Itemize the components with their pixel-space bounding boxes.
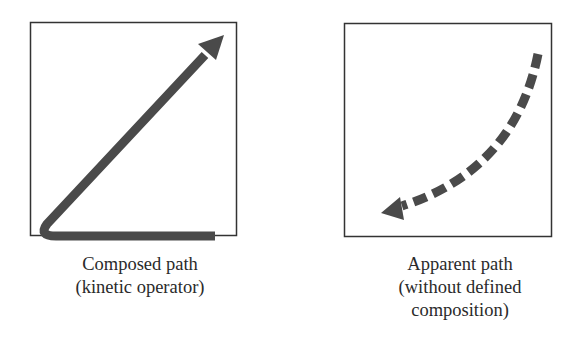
left-caption-line-1: Composed path (40, 253, 240, 276)
right-caption: Apparent path (without defined compositi… (370, 253, 550, 322)
left-caption: Composed path (kinetic operator) (40, 253, 240, 299)
right-caption-line-3: composition) (370, 299, 550, 322)
right-caption-line-2: (without defined (370, 276, 550, 299)
left-caption-line-2: (kinetic operator) (40, 276, 240, 299)
apparent-path-dashed-arrow (402, 54, 538, 206)
right-panel (345, 24, 552, 237)
left-panel (31, 23, 237, 237)
apparent-path-arrowhead-icon (381, 197, 404, 220)
composed-path-arrow (44, 55, 215, 236)
right-frame (345, 24, 552, 237)
right-caption-line-1: Apparent path (370, 253, 550, 276)
